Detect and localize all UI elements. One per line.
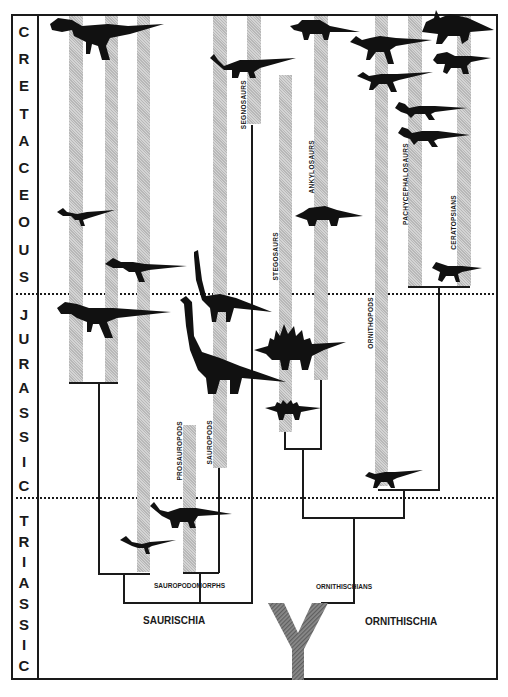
label-ceratopsians: CERATOPSIANS [450,195,457,250]
period-letter: S [19,269,29,284]
branch-line [438,287,440,490]
jurassic-triassic-boundary [11,497,498,499]
pachycephalosaurus-icon [395,102,469,122]
protoceratops-icon [433,52,493,76]
tyrannosaurus-icon [48,16,166,66]
plateosaurus-icon [150,502,234,530]
root-y-glyph [268,603,328,680]
period-letter: S [19,429,29,444]
period-letter: I [22,554,26,569]
label-ornithischians: ORNITHISCHIANS [316,583,372,590]
period-jurassic: J U R A S S I C [11,302,37,498]
hypsilophodon-icon [365,470,425,490]
label-segnosaurs: SEGNOSAURS [240,80,247,129]
period-letter: U [19,242,30,257]
label-saurischia: SAURISCHIA [143,615,205,626]
period-letter: I [22,637,26,652]
allosaurus-icon [57,300,173,340]
period-letter: S [19,596,29,611]
period-letter: T [19,106,28,121]
period-triassic: T R I A S S I C [11,510,37,676]
label-ornithischia: ORNITHISCHIA [365,616,437,627]
branch-line [98,383,100,575]
branch-line [183,572,219,574]
range-bar-theropod-3 [137,16,150,572]
period-letter: A [19,380,30,395]
period-letter: U [19,331,30,346]
theropod-icon [105,258,189,284]
period-letter: C [19,478,30,493]
label-prosauropods: PROSAUROPODS [176,421,183,481]
period-letter: I [22,454,26,469]
branch-line [123,602,253,604]
range-bar-sauropods [213,16,227,468]
range-bar-prosauropods [183,425,196,572]
period-column: C R E T A C E O U S J U R A S S I C T R … [11,14,39,680]
period-letter: O [18,214,30,229]
period-letter: R [19,51,30,66]
label-ankylosaurs: ANKYLOSAURS [308,140,315,194]
period-letter: C [19,160,30,175]
period-letter: E [19,187,29,202]
branch-line [302,449,304,519]
period-letter: J [20,307,28,322]
label-sauropods: SAUROPODS [206,420,213,465]
coelurosaur-icon [57,208,117,228]
label-sauropodomorphs: SAUROPODOMORPHS [154,582,225,589]
period-letter: R [19,534,30,549]
period-letter: C [19,658,30,673]
period-letter: E [19,78,29,93]
kentrosaurus-icon [265,398,323,422]
stegoceras-icon [398,127,472,149]
triceratops-icon [422,10,496,48]
segnosaur-icon [210,54,298,80]
branch-line [123,573,125,603]
nodosaur-icon [295,206,365,230]
period-letter: C [19,24,30,39]
iguanodon-icon [357,70,435,94]
branch-line [353,518,355,604]
psittacosaurus-icon [432,262,484,284]
period-letter: R [19,356,30,371]
branch-line [69,382,118,384]
branch-line [403,490,405,519]
label-ornithopods: ORNITHOPODS [367,297,374,349]
label-pachycephalosaurs: PACHYCEPHALOSAURS [402,143,409,225]
period-letter: A [19,133,30,148]
period-cretaceous: C R E T A C E O U S [11,18,37,290]
period-letter: S [19,617,29,632]
stegosaurus-icon [254,320,348,372]
period-letter: A [19,575,30,590]
period-letter: T [19,513,28,528]
branch-line [284,432,286,449]
early-dinosaur-icon [120,536,178,556]
period-letter: S [19,405,29,420]
